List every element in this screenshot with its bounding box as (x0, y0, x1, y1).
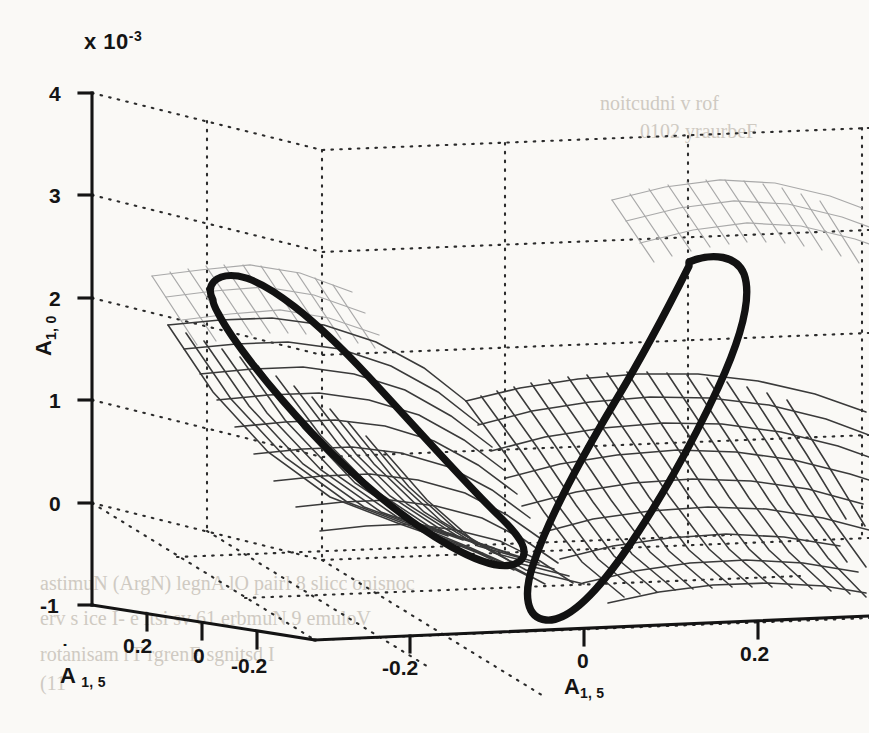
surface-mesh-far (152, 180, 869, 348)
x-right-tick-0: 0 (577, 649, 589, 673)
z-tick-neg1: -1 (40, 594, 59, 618)
z-tick-0: 0 (49, 492, 61, 516)
z-tick-4: 4 (49, 82, 61, 106)
x-left-tick-0p2: 0.2 (123, 634, 152, 658)
surface-plot-figure (0, 0, 869, 733)
x-right-tick-0p2: 0.2 (740, 642, 769, 666)
z-tick-3: 3 (49, 184, 61, 208)
x-left-tick-0: 0 (193, 644, 205, 668)
x-right-tick-neg0p2: -0.2 (382, 656, 418, 680)
x-right-axis-ticks (410, 622, 758, 652)
z-axis-multiplier: x 10-3 (84, 28, 142, 55)
x-left-axis-label: A ̇ 1, 5 (60, 663, 106, 690)
x-right-axis-label: A1, 5 (564, 674, 604, 701)
x-left-tick-neg0p2: -0.2 (231, 654, 267, 678)
z-axis-label: A1, 0 (31, 301, 58, 371)
z-tick-1: 1 (49, 389, 61, 413)
z-axis-ticks (79, 93, 92, 605)
x-left-axis-ticks (147, 614, 257, 648)
orbit-right-lobe (528, 257, 747, 620)
